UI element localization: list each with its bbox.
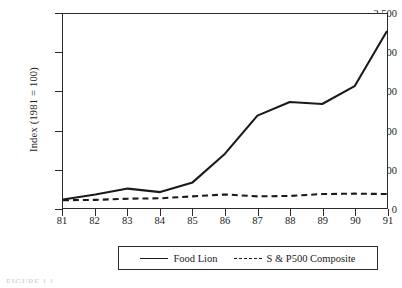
x-tick-label: 81 xyxy=(47,215,77,226)
y-tick-mark xyxy=(55,131,62,132)
x-tick-label: 91 xyxy=(373,215,402,226)
x-tick-label: 84 xyxy=(145,215,175,226)
y-axis-title: Index (1981 = 100) xyxy=(28,30,39,190)
series-lines xyxy=(63,14,387,208)
series-line-s-p500-composite xyxy=(63,194,387,201)
x-tick-label: 82 xyxy=(80,215,110,226)
series-line-food-lion xyxy=(63,31,387,199)
chart-legend: Food Lion S & P500 Composite xyxy=(118,246,378,270)
x-tick-mark xyxy=(192,209,193,216)
figure-caption-remnant: FIGURE 1.1 xyxy=(6,277,54,283)
x-tick-mark xyxy=(290,209,291,216)
legend-item-sp500: S & P500 Composite xyxy=(234,253,356,264)
y-tick-mark xyxy=(55,91,62,92)
legend-swatch-dashed-icon xyxy=(234,258,262,259)
x-tick-label: 86 xyxy=(210,215,240,226)
x-tick-mark xyxy=(355,209,356,216)
y-tick-mark xyxy=(55,209,62,210)
x-tick-mark xyxy=(160,209,161,216)
x-tick-label: 83 xyxy=(112,215,142,226)
x-tick-label: 87 xyxy=(243,215,273,226)
x-tick-label: 85 xyxy=(177,215,207,226)
x-tick-mark xyxy=(127,209,128,216)
x-tick-mark xyxy=(95,209,96,216)
x-tick-mark xyxy=(323,209,324,216)
y-tick-mark xyxy=(55,13,62,14)
plot-area xyxy=(62,13,388,209)
legend-swatch-solid-icon xyxy=(140,258,168,259)
y-tick-mark xyxy=(55,170,62,171)
legend-item-food-lion: Food Lion xyxy=(140,253,217,264)
x-tick-label: 89 xyxy=(308,215,338,226)
x-tick-mark xyxy=(388,209,389,216)
x-tick-mark xyxy=(62,209,63,216)
x-tick-mark xyxy=(258,209,259,216)
x-tick-label: 88 xyxy=(275,215,305,226)
legend-label-sp500: S & P500 Composite xyxy=(267,253,356,264)
y-tick-mark xyxy=(55,52,62,53)
x-tick-mark xyxy=(225,209,226,216)
legend-label-food-lion: Food Lion xyxy=(173,253,217,264)
x-tick-label: 90 xyxy=(340,215,370,226)
